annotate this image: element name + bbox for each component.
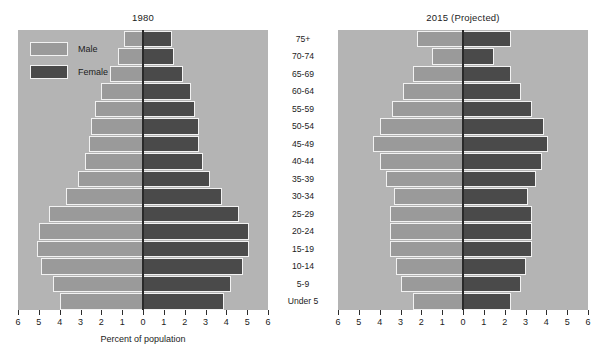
bar-male xyxy=(78,171,143,188)
bar-female xyxy=(463,101,532,118)
x-axis-tick xyxy=(359,310,360,315)
x-axis-tick-label: 2 xyxy=(419,317,424,327)
age-group-label: 20-24 xyxy=(268,226,338,236)
x-axis-tick xyxy=(463,310,464,315)
bar-male xyxy=(390,206,463,223)
bar-female xyxy=(463,206,532,223)
x-axis-tick-label: 5 xyxy=(245,317,250,327)
bar-male xyxy=(53,276,143,293)
legend-item-female: Female xyxy=(30,65,108,79)
bar-male xyxy=(413,293,463,310)
x-axis-tick xyxy=(442,310,443,315)
bar-female xyxy=(143,258,243,275)
legend-label-female: Female xyxy=(78,67,108,77)
x-axis-tick-label: 4 xyxy=(57,317,62,327)
x-axis-tick-label: 1 xyxy=(440,317,445,327)
bar-female xyxy=(143,241,249,258)
bar-female xyxy=(143,223,249,240)
bar-female xyxy=(143,276,231,293)
bar-male xyxy=(394,188,463,205)
bar-male xyxy=(60,293,143,310)
x-axis-tick-label: 5 xyxy=(565,317,570,327)
x-axis-tick xyxy=(18,310,19,315)
bar-female xyxy=(143,48,174,65)
x-axis-tick xyxy=(101,310,102,315)
bar-male xyxy=(85,153,143,170)
age-group-label: 10-14 xyxy=(268,261,338,271)
age-group-label: 25-29 xyxy=(268,209,338,219)
age-group-label: 65-69 xyxy=(268,69,338,79)
bar-male xyxy=(124,31,143,48)
bar-male xyxy=(403,83,463,100)
bar-male xyxy=(110,66,143,83)
x-axis-tick-label: 6 xyxy=(265,317,270,327)
panel-title-2015: 2015 (Projected) xyxy=(338,12,588,23)
x-axis-tick xyxy=(185,310,186,315)
x-axis-label: Percent of population xyxy=(18,334,268,344)
x-axis-tick xyxy=(268,310,269,315)
bar-male xyxy=(118,48,143,65)
bar-female xyxy=(463,258,526,275)
bar-female xyxy=(143,136,199,153)
age-group-label: 35-39 xyxy=(268,174,338,184)
x-axis-tick-label: 1 xyxy=(120,317,125,327)
legend-swatch-female-icon xyxy=(30,65,68,79)
x-axis-tick-label: 3 xyxy=(398,317,403,327)
x-axis-tick-label: 6 xyxy=(335,317,340,327)
bar-male xyxy=(392,101,463,118)
bar-male xyxy=(390,241,463,258)
bar-male xyxy=(95,101,143,118)
bar-male xyxy=(49,206,143,223)
bar-male xyxy=(380,153,463,170)
x-axis-tick-label: 0 xyxy=(140,317,145,327)
bar-male xyxy=(41,258,143,275)
age-group-label: 70-74 xyxy=(268,51,338,61)
bar-male xyxy=(66,188,143,205)
x-axis-tick xyxy=(338,310,339,315)
bar-female xyxy=(143,293,224,310)
bar-male xyxy=(417,31,463,48)
age-group-label-column: 75+70-7465-6960-6455-5950-5445-4940-4435… xyxy=(268,30,338,310)
x-axis-tick-label: 1 xyxy=(481,317,486,327)
x-axis-tick xyxy=(206,310,207,315)
bar-male xyxy=(413,66,463,83)
x-axis-tick xyxy=(567,310,568,315)
x-axis-tick xyxy=(39,310,40,315)
age-group-label: 45-49 xyxy=(268,139,338,149)
bar-female xyxy=(143,188,222,205)
x-axis-tick-label: 2 xyxy=(182,317,187,327)
x-axis-tick-label: 2 xyxy=(99,317,104,327)
x-axis-tick xyxy=(526,310,527,315)
center-axis-line-2015 xyxy=(462,30,463,310)
x-axis-tick-label: 6 xyxy=(15,317,20,327)
bar-female xyxy=(463,83,521,100)
bar-female xyxy=(463,66,511,83)
x-axis-tick xyxy=(226,310,227,315)
panel-title-1980: 1980 xyxy=(18,12,268,23)
legend-swatch-male-icon xyxy=(30,42,68,56)
bar-female xyxy=(463,241,532,258)
legend-item-male: Male xyxy=(30,42,108,56)
x-axis-tick xyxy=(588,310,589,315)
bar-male xyxy=(39,223,143,240)
bar-male xyxy=(89,136,143,153)
age-group-label: 50-54 xyxy=(268,121,338,131)
center-axis-line-1980 xyxy=(142,30,143,310)
x-axis-tick-label: 0 xyxy=(460,317,465,327)
x-axis-tick xyxy=(247,310,248,315)
x-axis-1980: 6543210123456 xyxy=(18,310,268,336)
x-axis-tick-label: 2 xyxy=(502,317,507,327)
x-axis-tick-label: 1 xyxy=(161,317,166,327)
bar-male xyxy=(432,48,463,65)
age-group-label: 75+ xyxy=(268,34,338,44)
plot-panel-2015 xyxy=(338,30,588,310)
bar-male xyxy=(37,241,143,258)
bar-female xyxy=(463,293,511,310)
population-pyramid-figure: 1980 2015 (Projected) Male Female 75+70-… xyxy=(0,0,603,358)
bar-female xyxy=(463,276,521,293)
bar-male xyxy=(373,136,463,153)
bar-female xyxy=(463,188,528,205)
legend-label-male: Male xyxy=(78,44,98,54)
x-axis-tick xyxy=(505,310,506,315)
bar-male xyxy=(401,276,464,293)
